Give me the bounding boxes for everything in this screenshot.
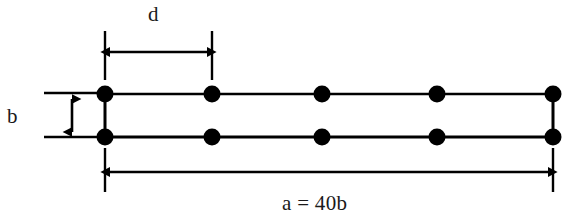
dimension-b (44, 93, 101, 137)
dimension-a (105, 148, 553, 192)
node (204, 86, 221, 103)
node (429, 86, 446, 103)
dimension-label-a: a = 40b (282, 193, 347, 214)
structure-end-posts (105, 94, 553, 137)
dimension-label-b: b (7, 106, 18, 127)
node (204, 129, 221, 146)
diagram-vector-layer (0, 0, 568, 221)
dimension-d (105, 31, 212, 80)
node (314, 129, 331, 146)
dimension-label-d: d (148, 4, 159, 25)
structure-chords (105, 94, 553, 137)
node (545, 129, 562, 146)
node (429, 129, 446, 146)
node (545, 86, 562, 103)
node (314, 86, 331, 103)
diagram-canvas: d b a = 40b (0, 0, 568, 221)
